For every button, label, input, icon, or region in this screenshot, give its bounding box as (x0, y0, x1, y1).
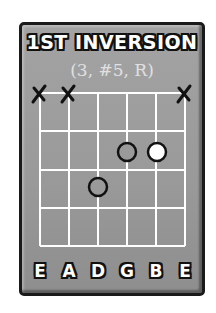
string-label-1: E (29, 258, 51, 284)
string-label-2: A (58, 258, 80, 284)
string-label-3: D (87, 258, 109, 284)
string-label-5: B (145, 258, 167, 284)
string-label-6: E (174, 258, 196, 284)
string-label-4: G (116, 258, 138, 284)
string-labels: E A D G B E (0, 0, 216, 313)
